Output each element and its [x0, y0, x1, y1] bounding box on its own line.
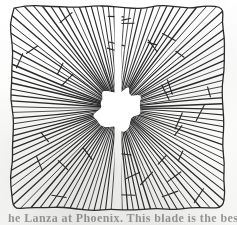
caption-text: he Lanza at Phoenix. This blade is the b…	[8, 214, 237, 225]
scanned-page: he Lanza at Phoenix. This blade is the b…	[0, 0, 237, 225]
radial-burst-figure	[0, 0, 237, 225]
caption-strip: he Lanza at Phoenix. This blade is the b…	[0, 214, 237, 225]
